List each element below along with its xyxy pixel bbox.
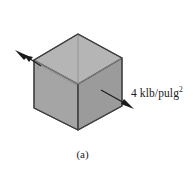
- stress-unit-exponent: 2: [179, 85, 183, 94]
- cube-graphic: [34, 34, 122, 130]
- stress-value-label: 4 klb/pulg2: [131, 87, 183, 99]
- right-arrowhead: [121, 99, 134, 109]
- left-arrowhead: [15, 50, 28, 60]
- figure-container: 4 klb/pulg2 (a): [0, 0, 193, 172]
- stress-unit: klb/pulg: [140, 87, 179, 99]
- figure-caption: (a): [0, 148, 165, 160]
- cube-stress-diagram: [0, 0, 193, 172]
- stress-value: 4: [131, 87, 137, 99]
